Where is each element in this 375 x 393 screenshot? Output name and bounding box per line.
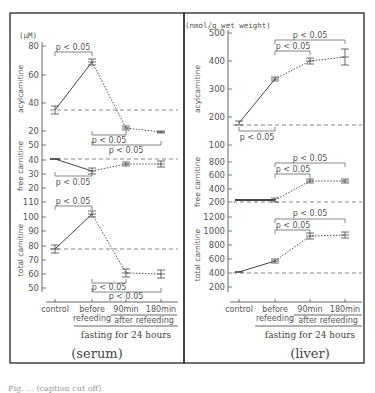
tick-label: 40 [28,155,39,165]
pvalue-label: p < 0.05 [56,197,91,206]
x-label-control: control [225,305,253,314]
pvalue-label: p < 0.05 [293,209,328,218]
liver-free-ticks: 800 600 400 200 [209,157,232,207]
tick-label: 50 [28,140,39,150]
pvalue-label: p < 0.05 [293,154,328,163]
serum-total-series: p < 0.05 p < 0.05 p < 0.05 [50,197,178,301]
liver-unit: (nmol/g wet weight) [185,21,271,30]
x-label-refeeding: refeeding [256,314,294,323]
tick-label: 40 [28,98,39,108]
tick-label: 200 [209,282,225,292]
x-label-control: control [41,305,69,314]
liver-x-axis: control before refeeding 90min 180min af… [225,299,362,340]
tick-label: 300 [209,84,225,94]
figure-caption: Fig. ... (caption cut off) [8,384,101,393]
tick-label: 20 [28,183,39,193]
x-label-90min: 90min [113,305,138,314]
pvalue-label: p < 0.05 [109,146,144,155]
tick-label: 80 [28,241,39,251]
x-group-fasting: fasting for 24 hours [265,330,356,340]
serum-free-ylabel: free carnitine [16,141,25,191]
x-label-180min: 180min [146,305,176,314]
x-label-after-refeeding: after refeeding [114,316,174,325]
liver-total-ylabel: total carnitine [193,228,202,281]
pvalue-label: p < 0.05 [276,165,311,174]
tick-label: 100 [23,212,39,222]
serum-free-series: p < 0.05 [50,159,178,187]
liver-total-series: p < 0.05 p < 0.05 [233,209,362,273]
pvalue-label: p < 0.05 [56,178,91,187]
serum-total-ticks: 110 100 90 80 70 60 50 [23,197,46,293]
serum-panel: (μM) 80 60 40 20 acylcarnitine 50 40 30 … [16,31,178,361]
serum-acyl-ticks: 80 60 40 20 [28,41,46,136]
serum-free-ticks: 50 40 30 20 [28,140,46,193]
tick-label: 200 [209,112,225,122]
liver-free-series: p < 0.05 p < 0.05 [233,154,362,202]
serum-total-ylabel: total carnitine [16,223,25,276]
serum-unit: (μM) [19,31,37,40]
x-group-fasting: fasting for 24 hours [81,330,172,340]
liver-acyl-ylabel: acylcarnitine [193,65,202,114]
tick-label: 400 [209,184,225,194]
tick-label: 1200 [203,212,225,222]
serum-acyl-ylabel: acylcarnitine [16,65,25,114]
tick-label: 90 [28,226,39,236]
x-label-before: before [79,305,105,314]
figure: (μM) 80 60 40 20 acylcarnitine 50 40 30 … [0,0,375,393]
liver-free-ylabel: free carnitine [193,157,202,207]
tick-label: 1000 [203,226,225,236]
tick-label: 400 [209,268,225,278]
tick-label: 110 [23,197,39,207]
pvalue-label: p < 0.05 [92,283,127,292]
tick-label: 30 [28,169,39,179]
tick-label: 400 [209,56,225,66]
serum-panel-label: (serum) [71,346,122,361]
serum-acyl-series: p < 0.05 p < 0.05 p < 0.05 [50,43,178,155]
tick-label: 100 [209,140,225,150]
pvalue-label: p < 0.05 [56,43,91,52]
tick-label: 600 [209,254,225,264]
liver-acyl-series: p < 0.05 p < 0.05 p < 0.05 [233,31,362,142]
tick-label: 60 [28,70,39,80]
x-label-refeeding: refeeding [73,314,111,323]
tick-label: 20 [28,126,39,136]
liver-panel: (nmol/g wet weight) 500 400 300 200 100 … [185,21,362,361]
pvalue-label: p < 0.05 [92,136,127,145]
pvalue-label: p < 0.05 [240,133,275,142]
pvalue-label: p < 0.05 [276,221,311,230]
tick-label: 50 [28,283,39,293]
x-label-180min: 180min [330,305,360,314]
tick-label: 200 [209,197,225,207]
tick-label: 70 [28,255,39,265]
tick-label: 500 [209,28,225,38]
tick-label: 800 [209,240,225,250]
pvalue-label: p < 0.05 [276,42,311,51]
pvalue-label: p < 0.05 [293,31,328,40]
x-label-90min: 90min [297,305,322,314]
x-label-before: before [262,305,288,314]
serum-x-axis: control before refeeding 90min 180min af… [41,299,178,340]
liver-acyl-ticks: 500 400 300 200 100 [209,28,232,150]
liver-panel-label: (liver) [290,346,330,361]
tick-label: 800 [209,157,225,167]
tick-label: 60 [28,269,39,279]
tick-label: 80 [28,41,39,51]
tick-label: 600 [209,170,225,180]
x-label-after-refeeding: after refeeding [298,316,358,325]
